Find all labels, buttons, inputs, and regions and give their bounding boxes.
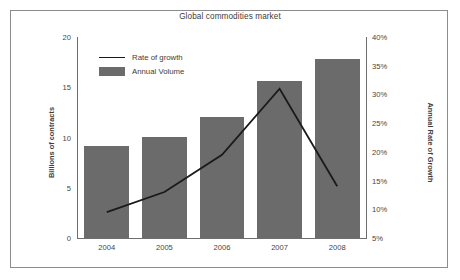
- legend-label-annual-volume: Annual Volume: [132, 67, 184, 76]
- x-tick-2006: 2006: [192, 243, 252, 252]
- y-tick-right: 35%: [372, 61, 412, 70]
- y-tick-left: 0: [31, 234, 71, 243]
- y-tick-right: 5%: [372, 234, 412, 243]
- legend-line-icon: [99, 57, 125, 58]
- y-tick-right: 25%: [372, 119, 412, 128]
- chart-title: Global commodities market: [0, 12, 460, 21]
- x-tick-2008: 2008: [307, 243, 367, 252]
- chart-legend: Rate of growth Annual Volume: [99, 50, 219, 78]
- y-tick-right: 40%: [372, 33, 412, 42]
- x-tick-2005: 2005: [134, 243, 194, 252]
- legend-item-annual-volume: Annual Volume: [99, 64, 219, 78]
- legend-item-rate-of-growth: Rate of growth: [99, 50, 219, 64]
- y-tick-left: 15: [31, 83, 71, 92]
- x-tick-2004: 2004: [77, 243, 137, 252]
- y-tick-right: 20%: [372, 147, 412, 156]
- y-tick-left: 20: [31, 33, 71, 42]
- y-tick-right: 15%: [372, 176, 412, 185]
- y-axis-right-line: [366, 37, 367, 239]
- legend-box-icon: [99, 67, 125, 76]
- y-tick-left: 10: [31, 133, 71, 142]
- legend-label-rate-of-growth: Rate of growth: [132, 53, 183, 62]
- x-axis-line: [77, 238, 367, 239]
- y-tick-right: 30%: [372, 90, 412, 99]
- y-axis-label-right: Annual Rate of Growth: [426, 78, 435, 208]
- y-tick-right: 10%: [372, 205, 412, 214]
- x-tick-2007: 2007: [250, 243, 310, 252]
- y-tick-left: 5: [31, 183, 71, 192]
- chart-figure: Global commodities market Billions of co…: [0, 0, 460, 280]
